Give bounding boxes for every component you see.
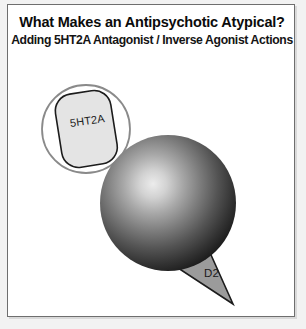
diagram-panel: What Makes an Antipsychotic Atypical? Ad… — [7, 4, 295, 317]
d2-label: D2 — [204, 267, 219, 279]
diagram-stage: 5HT2A D2 — [8, 5, 296, 318]
drug-sphere-shape — [100, 135, 236, 271]
receptor-diagram-svg — [8, 5, 296, 318]
figure-root: What Makes an Antipsychotic Atypical? Ad… — [0, 0, 306, 329]
ht2a-ligand-shape — [53, 88, 120, 170]
